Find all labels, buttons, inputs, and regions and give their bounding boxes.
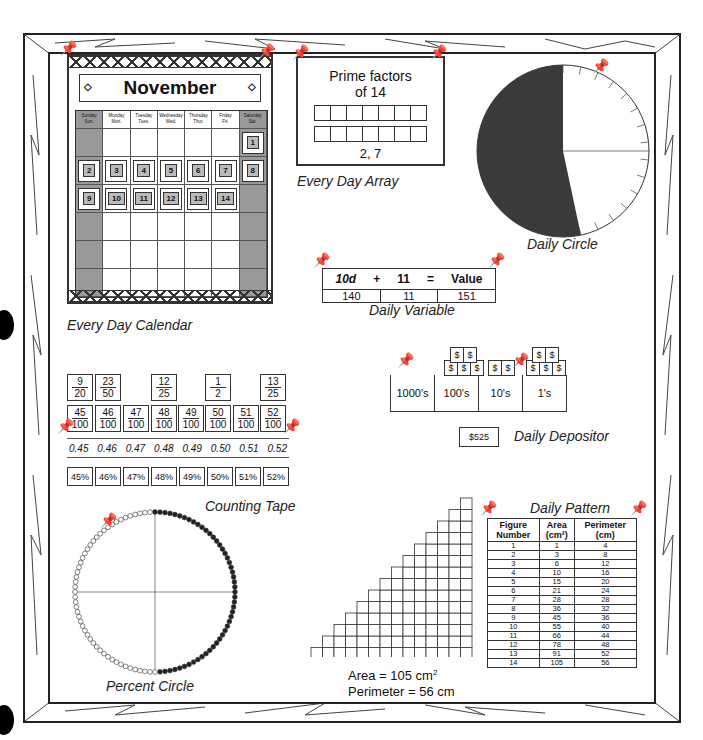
percent-card: 46% <box>95 467 121 486</box>
pushpin-icon: 📌 <box>630 500 647 516</box>
calendar-cell <box>103 129 130 157</box>
dollar-bill-icon: $ <box>532 347 546 363</box>
fraction-card: 920 <box>67 374 93 401</box>
pushpin-icon: 📌 <box>480 500 497 516</box>
percent-card: 47% <box>123 467 149 486</box>
col-header-area: Area(cm²) <box>539 519 574 542</box>
table-cell: 56 <box>574 659 636 668</box>
dollar-bill-icon: $ <box>450 347 464 363</box>
fraction-card: 1225 <box>151 374 177 401</box>
dollar-bill-icon: $ <box>463 347 477 363</box>
pushpin-icon: 📌 <box>430 44 447 60</box>
place-value-thousands: 1000's <box>390 375 435 412</box>
fraction-card: 12 <box>205 374 231 401</box>
calendar-cell: 11 <box>131 185 158 213</box>
table-row: 1410556 <box>488 659 637 668</box>
fraction-card: 2350 <box>95 374 121 401</box>
table-row: 114 <box>488 542 637 551</box>
pushpin-icon: 📌 <box>512 352 529 368</box>
every-day-calendar: November SundaySun. MondayMon. TuesdayTu… <box>67 54 273 304</box>
percent-card: 52% <box>263 467 289 486</box>
percent-card: 51% <box>235 467 261 486</box>
calendar-cell <box>212 129 239 157</box>
day-card: 4 <box>133 160 155 182</box>
calendar-cell <box>76 213 103 241</box>
plus-sign: + <box>373 272 380 286</box>
table-cell: 105 <box>539 659 574 668</box>
pushpin-icon: 📌 <box>57 418 74 434</box>
col-header-figure: FigureNumber <box>488 519 540 542</box>
calendar-cell <box>240 241 267 269</box>
decimal-value: 0.47 <box>126 443 145 454</box>
calendar-cell <box>240 213 267 241</box>
variable-values-row: 140 11 151 <box>322 289 496 303</box>
calendar-cell <box>131 213 158 241</box>
decimal-value: 0.45 <box>69 443 88 454</box>
hundredths-card: 49100 <box>178 405 204 432</box>
pushpin-icon: 📌 <box>488 252 505 268</box>
calendar-cell <box>131 241 158 269</box>
day-card: 9 <box>78 188 100 210</box>
place-value-hundreds: 100's <box>434 375 479 412</box>
calendar-cell: 1 <box>240 129 267 157</box>
calendar-cell: 8 <box>240 157 267 185</box>
percent-card: 49% <box>179 467 205 486</box>
calendar-cell <box>185 241 212 269</box>
variable-caption: Daily Variable <box>369 302 455 318</box>
calendar-caption: Every Day Calendar <box>67 317 192 333</box>
hundreds-bills: $$ <box>451 347 477 363</box>
day-card: 8 <box>242 160 264 182</box>
day-card: 3 <box>105 160 127 182</box>
depositor-total: $525 <box>459 427 499 447</box>
day-card: 13 <box>187 188 209 210</box>
decimal-value: 0.49 <box>182 443 201 454</box>
table-row: 72828 <box>488 596 637 605</box>
table-row: 41016 <box>488 569 637 578</box>
margin-bullet <box>0 705 14 735</box>
variable-value-label: Value <box>451 272 482 286</box>
pushpin-icon: 📌 <box>313 252 330 268</box>
hundredths-card: 46100 <box>95 405 121 432</box>
pushpin-icon: 📌 <box>292 44 309 60</box>
percent-circle <box>60 507 250 677</box>
calendar-cell: 2 <box>76 157 103 185</box>
calendar-cell <box>76 241 103 269</box>
month-title: November <box>79 74 261 102</box>
dollar-bill-icon: $ <box>488 360 502 376</box>
day-header-sun: SundaySun. <box>76 111 103 129</box>
calendar-cell: 7 <box>212 157 239 185</box>
calendar-cell <box>131 129 158 157</box>
calendar-cell <box>185 129 212 157</box>
percent-card: 45% <box>67 467 93 486</box>
day-card: 7 <box>215 160 237 182</box>
calendar-cell: 4 <box>131 157 158 185</box>
variable-term: 10d <box>336 272 357 286</box>
daily-variable: 10d + 11 = Value 140 11 151 <box>322 268 496 303</box>
calendar-cell <box>185 213 212 241</box>
zigzag-border-top <box>69 56 271 68</box>
decimal-value: 0.52 <box>268 443 287 454</box>
calendar-cell: 12 <box>158 185 185 213</box>
variable-cell: 140 <box>323 290 381 302</box>
calendar-cell <box>212 241 239 269</box>
decimal-tape: 0.45 0.46 0.47 0.48 0.49 0.50 0.51 0.52 <box>67 438 289 458</box>
percent-card: 50% <box>207 467 233 486</box>
day-card: 6 <box>187 160 209 182</box>
day-header-tue: TuesdayTues. <box>131 111 158 129</box>
decimal-value: 0.46 <box>97 443 116 454</box>
decimal-value: 0.51 <box>239 443 258 454</box>
col-header-perimeter: Perimeter(cm) <box>574 519 636 542</box>
day-card: 1 <box>242 132 264 154</box>
decimal-value: 0.50 <box>211 443 230 454</box>
day-card: 12 <box>160 188 182 210</box>
pushpin-icon: 📌 <box>258 43 275 59</box>
calendar-cell <box>103 213 130 241</box>
pushpin-icon: 📌 <box>397 352 414 368</box>
daily-circle-caption: Daily Circle <box>527 236 598 252</box>
day-header-sat: SaturdaySat. <box>240 111 267 129</box>
pushpin-icon: 📌 <box>100 512 117 528</box>
calendar-cell: 6 <box>185 157 212 185</box>
day-card: 11 <box>133 188 155 210</box>
hundredths-card: 50100 <box>205 405 231 432</box>
table-row: 3612 <box>488 560 637 569</box>
